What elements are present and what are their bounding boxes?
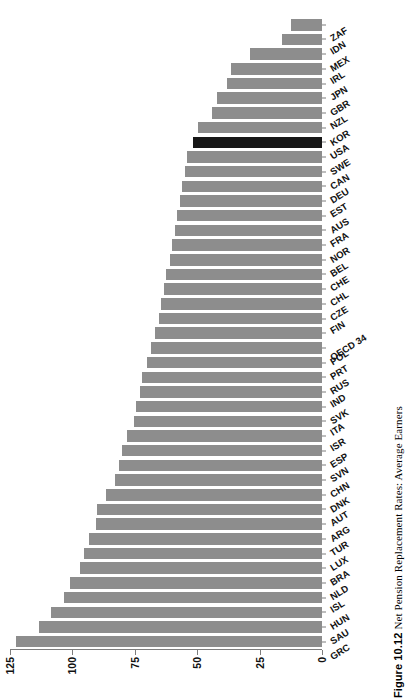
category-axis-tick xyxy=(322,318,326,319)
category-axis-tick xyxy=(322,333,326,334)
bar-slot: CHN xyxy=(10,473,322,488)
category-axis-tick xyxy=(322,568,326,569)
bar xyxy=(182,181,322,192)
category-axis-tick xyxy=(322,406,326,407)
bar-slot: RUS xyxy=(10,370,322,385)
category-axis-tick xyxy=(322,186,326,187)
bar-slot: ISR xyxy=(10,429,322,444)
bar xyxy=(155,327,322,338)
value-axis-tick-label: 75 xyxy=(129,657,141,669)
category-axis-tick xyxy=(322,39,326,40)
bar-highlighted xyxy=(193,137,322,148)
value-axis-tick-label: 50 xyxy=(191,657,203,669)
bar-slot: BEL xyxy=(10,252,322,267)
bar-slot: IDN xyxy=(10,32,322,47)
category-axis-tick xyxy=(322,641,326,642)
category-axis-tick xyxy=(322,68,326,69)
bar xyxy=(161,298,322,309)
category-axis-tick xyxy=(322,465,326,466)
bar-slot: ZAF xyxy=(10,17,322,32)
category-axis-label: FIN xyxy=(328,318,347,335)
bar-slot: USA xyxy=(10,135,322,150)
value-axis-tick xyxy=(322,650,323,655)
category-axis-tick xyxy=(322,142,326,143)
category-axis-tick xyxy=(322,538,326,539)
bar xyxy=(16,636,322,647)
category-axis-tick xyxy=(322,377,326,378)
bar xyxy=(119,460,322,471)
bar xyxy=(96,518,322,529)
bar-slot: SWE xyxy=(10,150,322,165)
value-axis-tick-label: 0 xyxy=(316,657,328,663)
bar-slot: POL xyxy=(10,341,322,356)
category-axis-tick xyxy=(322,509,326,510)
bar-slot: PRT xyxy=(10,355,322,370)
category-axis-label: OECD 34 xyxy=(328,332,368,363)
bar xyxy=(39,621,322,632)
bar xyxy=(70,577,322,588)
category-axis-tick xyxy=(322,480,326,481)
bar-slot: ITA xyxy=(10,414,322,429)
figure-container: Figure 10.12 Net Pension Replacement Rat… xyxy=(0,0,419,698)
bar xyxy=(106,489,322,500)
bar-slot: ARG xyxy=(10,517,322,532)
bar xyxy=(159,313,322,324)
bar-slot: CHE xyxy=(10,267,322,282)
bar-slot: NOR xyxy=(10,238,322,253)
value-axis-tick xyxy=(260,650,261,655)
bar xyxy=(64,592,322,603)
category-axis-tick xyxy=(322,289,326,290)
value-axis-line: 0255075100125 xyxy=(10,649,322,650)
value-axis-tick xyxy=(135,650,136,655)
bar xyxy=(122,445,322,456)
category-axis-tick xyxy=(322,98,326,99)
category-axis-tick xyxy=(322,421,326,422)
category-axis-label: ZAF xyxy=(328,24,349,43)
bar-slot: HUN xyxy=(10,605,322,620)
bar-slot: CZE xyxy=(10,297,322,312)
bar-slot: AUS xyxy=(10,208,322,223)
bar xyxy=(151,342,322,353)
bar xyxy=(175,225,322,236)
bar xyxy=(187,151,322,162)
category-axis-tick xyxy=(322,612,326,613)
category-axis-tick xyxy=(322,597,326,598)
bar xyxy=(97,504,322,515)
bar xyxy=(185,166,322,177)
bar-slot: CAN xyxy=(10,164,322,179)
bar-slot: NZL xyxy=(10,106,322,121)
value-axis-tick xyxy=(72,650,73,655)
bar-slot: GRC xyxy=(10,634,322,649)
category-axis-tick xyxy=(322,54,326,55)
figure-caption-text: Net Pension Replacement Rates: Average E… xyxy=(392,406,404,629)
bar xyxy=(198,122,322,133)
bar xyxy=(172,239,322,250)
category-axis-tick xyxy=(322,215,326,216)
bar-slot: KOR xyxy=(10,120,322,135)
bar xyxy=(250,48,322,59)
category-axis-tick xyxy=(322,582,326,583)
value-axis-tick xyxy=(197,650,198,655)
bar-slot: GBR xyxy=(10,91,322,106)
bar-slot: DEU xyxy=(10,179,322,194)
bar-slot: AUT xyxy=(10,502,322,517)
bar-slot: LUX xyxy=(10,546,322,561)
bar xyxy=(180,195,322,206)
bar-slot: ESP xyxy=(10,443,322,458)
bar-series: GRCSAUHUNISLNLDBRALUXTURARGAUTDNKCHNSVNE… xyxy=(10,17,322,649)
figure-number: Figure 10.12 xyxy=(392,633,404,698)
bar-slot: JPN xyxy=(10,76,322,91)
bar-slot: BRA xyxy=(10,561,322,576)
bar-slot: SVN xyxy=(10,458,322,473)
bar-slot: OECD 34 xyxy=(10,326,322,341)
bar xyxy=(282,34,322,45)
bar xyxy=(127,430,322,441)
category-axis-tick xyxy=(322,524,326,525)
category-axis-tick xyxy=(322,391,326,392)
category-axis-tick xyxy=(322,494,326,495)
bar-slot: FRA xyxy=(10,223,322,238)
bar xyxy=(51,607,322,618)
bar xyxy=(84,548,322,559)
bar xyxy=(212,107,322,118)
category-axis-tick xyxy=(322,362,326,363)
